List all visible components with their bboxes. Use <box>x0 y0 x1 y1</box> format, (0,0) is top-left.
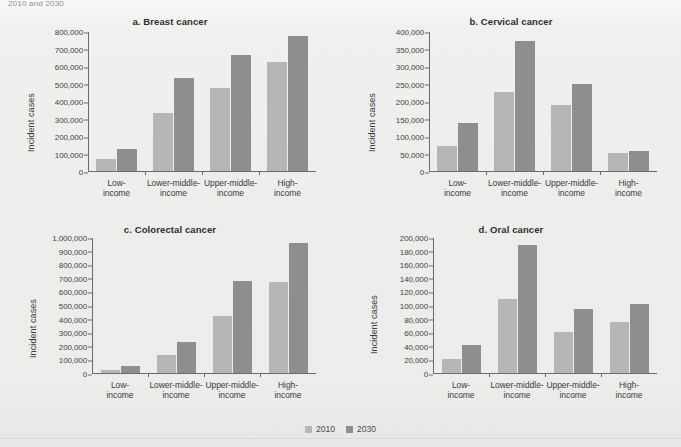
x-tick-label: Upper-middle-income <box>543 178 600 198</box>
x-tick-labels: Low-incomeLower-middle-incomeUpper-middl… <box>92 380 316 400</box>
y-tick-label: 1,000,000 <box>52 234 92 243</box>
panel-grid: a. Breast cancer Incident cases 0100,000… <box>0 10 681 420</box>
bar-group <box>145 32 202 171</box>
y-tick-label: 50,000 <box>400 150 429 159</box>
bar-group <box>88 32 145 171</box>
y-tick-label: 500,000 <box>59 302 92 311</box>
bar-2030 <box>574 309 593 373</box>
panel-title: b. Cervical cancer <box>341 16 681 27</box>
y-tick-label: 300,000 <box>396 63 429 72</box>
x-tick-label: Low-income <box>88 178 145 198</box>
x-tick-mark <box>202 171 203 175</box>
x-tick-labels: Low-incomeLower-middle-incomeUpper-middl… <box>433 380 657 400</box>
y-axis-label: Incident cases <box>367 93 377 152</box>
y-tick-label: 200,000 <box>396 98 429 107</box>
y-tick-label: 300,000 <box>55 115 88 124</box>
x-tick-label: High-income <box>601 380 657 400</box>
legend-label: 2030 <box>357 424 376 434</box>
x-tick-mark <box>600 171 601 175</box>
x-tick-label: Upper-middle-income <box>545 380 601 400</box>
bar-groups <box>92 238 316 373</box>
bar-2010 <box>498 299 517 373</box>
bar-2010 <box>96 159 116 171</box>
y-axis-label: Incident cases <box>369 295 379 354</box>
bar-group <box>202 32 259 171</box>
bar-2030 <box>233 281 252 373</box>
y-tick-label: 20,000 <box>404 356 433 365</box>
square-swatch-icon <box>305 426 312 433</box>
bar-2010 <box>153 113 173 171</box>
bar-groups <box>433 238 657 373</box>
footer-rule <box>0 438 681 439</box>
y-tick-label: 600,000 <box>59 288 92 297</box>
bar-2030 <box>289 243 308 373</box>
bar-2030 <box>121 366 140 373</box>
figure-page: 2010 and 2030 a. Breast cancer Incident … <box>0 0 681 447</box>
x-tick-mark <box>601 373 602 377</box>
bar-group <box>92 238 148 373</box>
y-tick-label: 180,000 <box>400 247 433 256</box>
panel-cervical-cancer: b. Cervical cancer Incident cases 050,00… <box>341 10 681 215</box>
bar-2030 <box>462 345 481 373</box>
bar-2010 <box>442 359 461 373</box>
y-tick-label: 200,000 <box>400 234 433 243</box>
y-tick-label: 40,000 <box>404 342 433 351</box>
bar-2030 <box>117 149 137 171</box>
bar-group <box>259 32 316 171</box>
panel-title: a. Breast cancer <box>0 16 340 27</box>
plot-area: 050,000100,000150,000200,000250,000300,0… <box>429 32 657 172</box>
bar-2030 <box>177 342 196 373</box>
bar-group <box>260 238 316 373</box>
plot-area: 0100,000200,000300,000400,000500,000600,… <box>88 32 316 172</box>
y-tick-label: 0 <box>420 168 429 177</box>
x-tick-label: High-income <box>260 380 316 400</box>
y-tick-label: 250,000 <box>396 80 429 89</box>
y-axis-label: Incident cases <box>26 93 36 152</box>
legend-label: 2010 <box>316 424 335 434</box>
x-tick-mark <box>259 171 260 175</box>
bar-2010 <box>437 146 457 171</box>
y-tick-label: 100,000 <box>59 356 92 365</box>
bar-group <box>204 238 260 373</box>
y-axis-label: Incident cases <box>28 299 38 358</box>
bar-2030 <box>630 304 649 373</box>
bar-group <box>433 238 489 373</box>
plot-area: 020,00040,00060,00080,000100,000120,0001… <box>433 238 657 374</box>
bar-2010 <box>608 153 628 171</box>
bar-2030 <box>231 55 251 171</box>
y-tick-label: 600,000 <box>55 63 88 72</box>
x-tick-mark <box>204 373 205 377</box>
bar-2010 <box>554 332 573 373</box>
x-tick-mark <box>260 373 261 377</box>
y-tick-label: 160,000 <box>400 261 433 270</box>
bar-2030 <box>288 36 308 171</box>
bar-2010 <box>267 62 287 171</box>
x-tick-mark <box>543 171 544 175</box>
y-tick-label: 0 <box>79 168 88 177</box>
bar-2010 <box>210 88 230 171</box>
y-tick-label: 100,000 <box>396 133 429 142</box>
y-tick-label: 800,000 <box>55 28 88 37</box>
y-tick-label: 900,000 <box>59 247 92 256</box>
y-tick-label: 150,000 <box>396 115 429 124</box>
plot-area: 0100,000200,000300,000400,000500,000600,… <box>92 238 316 374</box>
bar-2010 <box>494 92 514 171</box>
y-tick-label: 80,000 <box>404 315 433 324</box>
y-tick-label: 300,000 <box>59 329 92 338</box>
y-tick-label: 60,000 <box>404 329 433 338</box>
bar-group <box>489 238 545 373</box>
x-tick-label: Low-income <box>433 380 489 400</box>
bar-2030 <box>458 123 478 171</box>
bar-2030 <box>518 245 537 373</box>
y-tick-label: 200,000 <box>55 133 88 142</box>
y-tick-label: 0 <box>424 370 433 379</box>
y-tick-label: 500,000 <box>55 80 88 89</box>
bar-group <box>545 238 601 373</box>
top-caption-fragment: 2010 and 2030 <box>8 0 128 7</box>
square-swatch-icon <box>346 426 353 433</box>
x-tick-mark <box>489 373 490 377</box>
bar-group <box>600 32 657 171</box>
panel-title: d. Oral cancer <box>341 224 681 235</box>
x-tick-label: Upper-middle-income <box>204 380 260 400</box>
x-tick-label: Low-income <box>429 178 486 198</box>
